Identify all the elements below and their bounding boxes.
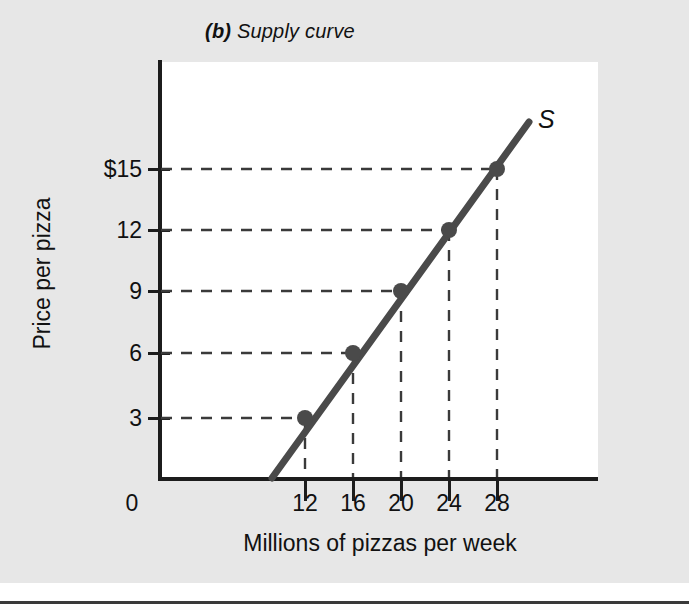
- chart-title-text: Supply curve: [231, 20, 355, 42]
- y-tick-label-3: 3: [72, 405, 142, 432]
- y-tick-label-12: 12: [72, 217, 142, 244]
- y-tick-mark-12: [148, 229, 170, 232]
- chart-title-prefix: (b): [205, 20, 231, 42]
- figure-panel: (b) Supply curve $15 12 9 6 3 12 16 20 2…: [0, 0, 689, 583]
- y-axis-title: Price per pizza: [29, 164, 56, 384]
- y-tick-mark-15: [148, 168, 170, 171]
- y-tick-label-6: 6: [72, 340, 142, 367]
- x-axis-title: Millions of pizzas per week: [150, 530, 610, 557]
- bottom-white-band: [0, 583, 689, 601]
- plot-area: [161, 62, 598, 478]
- x-axis-line: [158, 477, 598, 481]
- chart-title: (b) Supply curve: [0, 20, 560, 43]
- y-tick-mark-9: [148, 290, 170, 293]
- origin-label: 0: [112, 490, 152, 517]
- bottom-edge-band: [0, 604, 689, 608]
- x-tick-label-28: 28: [467, 490, 527, 517]
- y-tick-label-9: 9: [72, 278, 142, 305]
- y-tick-mark-3: [148, 417, 170, 420]
- y-tick-mark-6: [148, 352, 170, 355]
- y-tick-label-15: $15: [72, 156, 142, 183]
- supply-curve-label: S: [538, 105, 555, 134]
